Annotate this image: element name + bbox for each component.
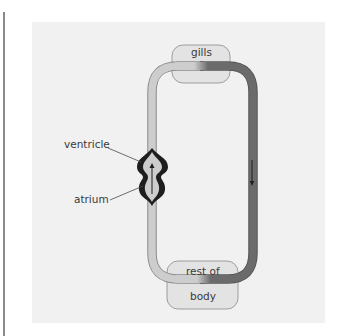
circulation-diagram (0, 0, 337, 336)
body-label-line1: rest of (186, 265, 220, 277)
ventricle-leader-line (108, 148, 141, 162)
vessel-loop (152, 62, 253, 283)
atrium-label: atrium (74, 193, 109, 205)
heart (137, 148, 168, 206)
atrium-leader-line (110, 186, 143, 200)
ventricle-label: ventricle (64, 138, 110, 150)
body-label-line2: body (190, 290, 216, 302)
gills-label: gills (191, 46, 212, 58)
